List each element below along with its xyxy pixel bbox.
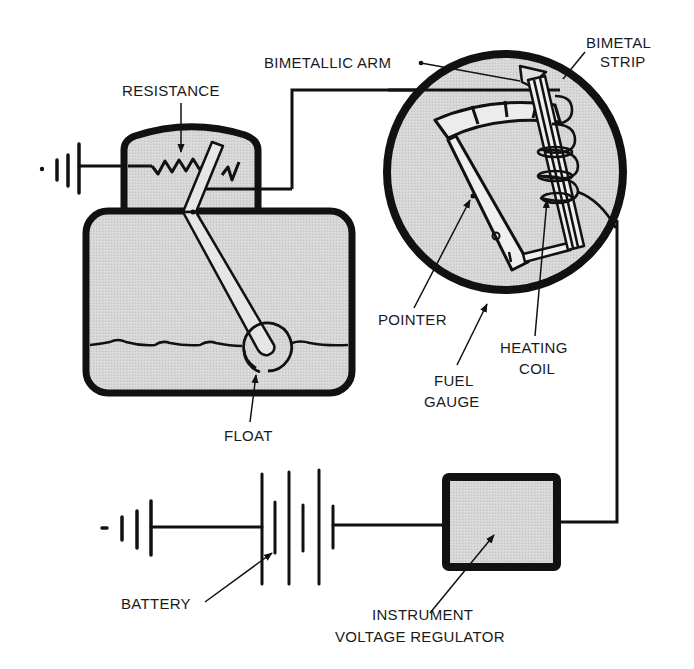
label-fuel-gauge-2: GAUGE bbox=[424, 393, 480, 410]
label-float: FLOAT bbox=[224, 427, 273, 444]
battery bbox=[262, 470, 443, 584]
fuel-gauge bbox=[387, 54, 623, 290]
ground-symbol-bottom bbox=[102, 501, 262, 555]
label-bimetallic-arm: BIMETALLIC ARM bbox=[264, 54, 391, 71]
label-heating-coil-2: COIL bbox=[519, 360, 555, 377]
label-heating-coil-1: HEATING bbox=[500, 339, 568, 356]
label-fuel-gauge-1: FUEL bbox=[434, 372, 474, 389]
label-regulator-2: VOLTAGE REGULATOR bbox=[335, 628, 505, 645]
ground-symbol-top bbox=[40, 144, 128, 193]
instrument-voltage-regulator bbox=[446, 477, 557, 567]
label-resistance: RESISTANCE bbox=[122, 82, 220, 99]
label-bimetal-strip-2: STRIP bbox=[600, 53, 646, 70]
fuel-tank bbox=[86, 211, 352, 393]
label-regulator-1: INSTRUMENT bbox=[372, 606, 473, 623]
label-bimetal-strip-1: BIMETAL bbox=[586, 34, 651, 51]
label-pointer: POINTER bbox=[378, 311, 447, 328]
leader-fuel-gauge bbox=[457, 304, 487, 365]
label-battery: BATTERY bbox=[121, 595, 191, 612]
fuel-gauge-diagram: RESISTANCE BIMETALLIC ARM BIMETAL STRIP … bbox=[0, 0, 694, 669]
